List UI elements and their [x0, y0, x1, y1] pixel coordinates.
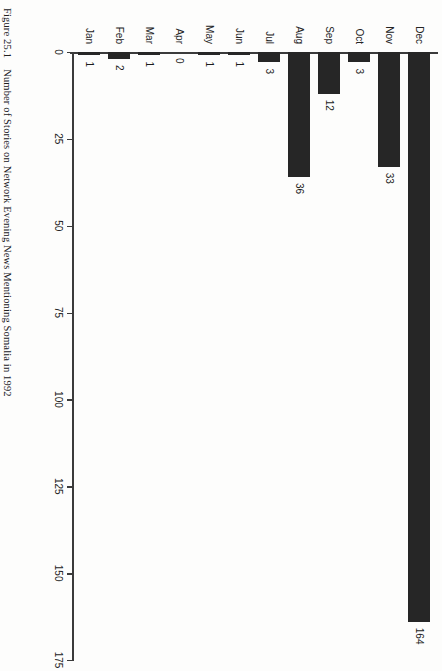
figure-number: Figure 25.1 [2, 8, 13, 58]
bar-oct [348, 52, 370, 62]
bar-value-label: 0 [174, 58, 185, 64]
rotated-figure-container: 0255075100125150175 12101133612333164 Ja… [0, 0, 442, 671]
category-label-apr: Apr [174, 0, 185, 44]
category-label-mar: Mar [144, 0, 155, 44]
bar-value-label: 1 [144, 61, 155, 67]
scanned-figure-page: 0255075100125150175 12101133612333164 Ja… [0, 0, 442, 671]
bar-value-label: 33 [384, 173, 395, 184]
category-label-jul: Jul [264, 0, 275, 44]
value-axis-tick-label: 100 [53, 391, 64, 408]
bar-chart: 0255075100125150175 12101133612333164 Ja… [42, 0, 442, 671]
bar-jun [228, 52, 250, 55]
category-label-sep: Sep [324, 0, 335, 44]
value-axis-tick [67, 660, 74, 661]
value-axis-tick-label: 25 [53, 133, 64, 144]
bar-jul [258, 52, 280, 62]
category-label-may: May [204, 0, 215, 44]
value-axis-line [72, 52, 74, 660]
value-axis-tick [67, 139, 74, 140]
value-axis-tick-label: 150 [53, 565, 64, 582]
bar-mar [138, 52, 160, 55]
value-axis-tick [67, 399, 74, 400]
value-axis-tick-label: 75 [53, 307, 64, 318]
bar-aug [288, 52, 310, 177]
bar-value-label: 1 [234, 61, 245, 67]
value-axis-tick [67, 226, 74, 227]
bar-value-label: 1 [204, 61, 215, 67]
value-axis-tick-label: 125 [53, 478, 64, 495]
value-axis-tick [67, 313, 74, 314]
plot-area: 0255075100125150175 12101133612333164 Ja… [74, 52, 434, 660]
value-axis-tick [67, 486, 74, 487]
value-axis-tick-label: 175 [53, 652, 64, 669]
bar-may [198, 52, 220, 55]
category-label-dec: Dec [414, 0, 425, 44]
category-label-aug: Aug [294, 0, 305, 44]
figure-caption-text: Number of Stories on Network Evening New… [2, 69, 13, 397]
value-axis-tick [67, 573, 74, 574]
category-label-jun: Jun [234, 0, 245, 44]
figure-caption: Figure 25.1 Number of Stories on Network… [2, 8, 13, 663]
bar-value-label: 2 [114, 65, 125, 71]
bar-value-label: 3 [354, 68, 365, 74]
bar-feb [108, 52, 130, 59]
value-axis-tick-label: 50 [53, 220, 64, 231]
bar-dec [408, 52, 430, 622]
category-label-feb: Feb [114, 0, 125, 44]
bar-jan [78, 52, 100, 55]
value-axis-tick [67, 52, 74, 53]
category-label-jan: Jan [84, 0, 95, 44]
category-label-nov: Nov [384, 0, 395, 44]
bar-sep [318, 52, 340, 94]
bar-nov [378, 52, 400, 167]
bar-value-label: 1 [84, 61, 95, 67]
bar-value-label: 36 [294, 183, 305, 194]
category-label-oct: Oct [354, 0, 365, 44]
bar-value-label: 12 [324, 100, 335, 111]
value-axis-tick-label: 0 [53, 49, 64, 55]
bar-value-label: 164 [414, 628, 425, 645]
bar-value-label: 3 [264, 68, 275, 74]
